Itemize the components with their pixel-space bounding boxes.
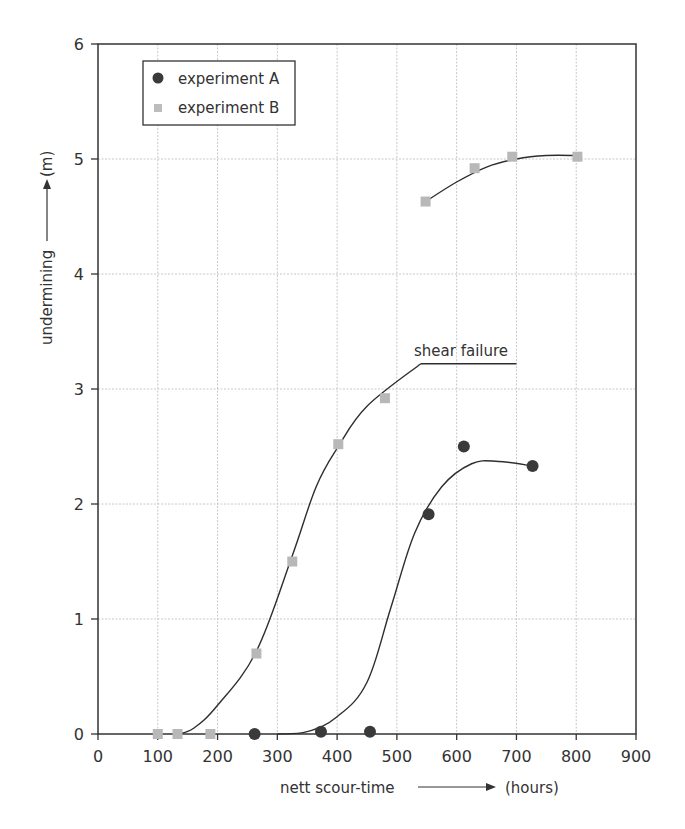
- legend-label-b: experiment B: [178, 99, 279, 117]
- x-tick-label: 0: [93, 747, 103, 766]
- legend-marker-square-icon: [154, 104, 162, 112]
- data-point-square: [380, 393, 390, 403]
- x-tick-label: 200: [202, 747, 233, 766]
- x-tick-label: 800: [561, 747, 592, 766]
- axes: [91, 44, 636, 740]
- y-axis-unit: (m): [38, 151, 56, 177]
- y-tick-label: 3: [74, 380, 84, 399]
- fit-curves: [178, 155, 578, 734]
- y-tick-label: 2: [74, 495, 84, 514]
- shear-failure-annotation: shear failure: [414, 342, 508, 360]
- grid-lines: [98, 44, 636, 734]
- legend: experiment A experiment B: [143, 61, 295, 125]
- y-tick-label: 4: [74, 265, 84, 284]
- fit-curve: [426, 155, 578, 201]
- data-points: [153, 152, 583, 740]
- y-tick-label: 6: [74, 35, 84, 54]
- data-point-square: [251, 649, 261, 659]
- data-point-circle: [527, 460, 539, 472]
- tick-labels: 01002003004005006007008009000123456: [74, 35, 651, 766]
- data-point-square: [173, 729, 183, 739]
- x-tick-label: 300: [262, 747, 293, 766]
- chart: 01002003004005006007008009000123456 shea…: [0, 0, 685, 829]
- legend-label-a: experiment A: [178, 70, 280, 88]
- y-tick-label: 0: [74, 725, 84, 744]
- data-point-square: [507, 152, 517, 162]
- x-tick-label: 700: [501, 747, 532, 766]
- fit-curve: [277, 461, 532, 734]
- data-point-square: [205, 729, 215, 739]
- y-axis-title: undermining (m): [38, 151, 56, 345]
- data-point-circle: [423, 508, 435, 520]
- x-tick-label: 100: [143, 747, 174, 766]
- data-point-square: [470, 163, 480, 173]
- data-point-circle: [315, 726, 327, 738]
- x-tick-label: 500: [382, 747, 413, 766]
- data-point-circle: [364, 726, 376, 738]
- legend-marker-circle-icon: [153, 73, 164, 84]
- x-tick-label: 900: [621, 747, 652, 766]
- x-axis-unit: (hours): [505, 779, 559, 797]
- data-point-square: [572, 152, 582, 162]
- data-point-square: [333, 439, 343, 449]
- data-point-circle: [249, 728, 261, 740]
- x-tick-label: 600: [441, 747, 472, 766]
- data-point-square: [153, 729, 163, 739]
- y-tick-label: 5: [74, 150, 84, 169]
- arrow-right-icon: [486, 783, 496, 791]
- fit-curve: [178, 364, 421, 734]
- x-axis-label: nett scour-time: [280, 779, 395, 797]
- data-point-circle: [458, 441, 470, 453]
- y-tick-label: 1: [74, 610, 84, 629]
- data-point-square: [287, 557, 297, 567]
- arrow-up-icon: [43, 179, 51, 189]
- data-point-square: [421, 197, 431, 207]
- x-tick-label: 400: [322, 747, 353, 766]
- x-axis-title: nett scour-time (hours): [280, 779, 559, 797]
- y-axis-label: undermining: [38, 250, 56, 345]
